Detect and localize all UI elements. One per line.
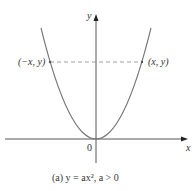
point-right [141,61,143,63]
x-axis-label: x [186,143,190,153]
point-right-label: (x, y) [148,57,169,67]
y-axis-arrow [94,14,99,21]
parabola-diagram [0,0,195,191]
origin-label: 0 [87,143,92,153]
point-left-label: (−x, y) [18,57,45,67]
x-axis-arrow [181,137,188,142]
y-axis-label: y [87,11,91,21]
point-left [49,61,51,63]
caption: (a) y = ax², a > 0 [52,173,119,183]
